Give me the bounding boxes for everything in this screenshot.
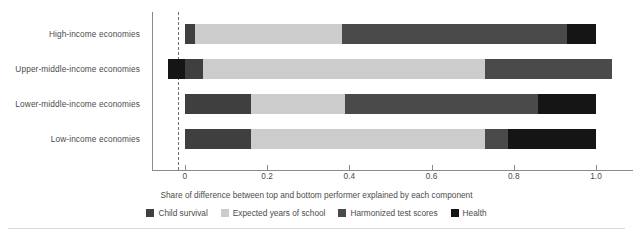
bar-segment-harmonized-test-scores[interactable] bbox=[485, 129, 508, 149]
legend-swatch-icon bbox=[451, 209, 459, 217]
bottom-divider bbox=[8, 228, 625, 229]
x-tick-mark bbox=[349, 165, 350, 170]
chart-legend: Child survivalExpected years of schoolHa… bbox=[0, 208, 633, 218]
x-tick-label: 1.0 bbox=[590, 171, 602, 181]
bar-segment-child-survival[interactable] bbox=[185, 129, 251, 149]
legend-label: Expected years of school bbox=[233, 208, 326, 218]
bar-segment-expected-years-of-school[interactable] bbox=[195, 24, 342, 44]
bar-segment-health[interactable] bbox=[538, 94, 596, 114]
legend-item-health[interactable]: Health bbox=[451, 208, 487, 218]
x-tick-mark bbox=[596, 165, 597, 170]
legend-swatch-icon bbox=[146, 209, 154, 217]
stacked-bar-chart: High-income economies Upper-middle-incom… bbox=[0, 0, 633, 236]
bar-lower-middle-income-economies[interactable] bbox=[152, 94, 633, 114]
x-tick-label: 0.4 bbox=[344, 171, 356, 181]
x-tick-label: 0 bbox=[183, 171, 188, 181]
bar-segment-child-survival[interactable] bbox=[185, 59, 204, 79]
bar-segment-harmonized-test-scores[interactable] bbox=[345, 94, 538, 114]
bar-low-income-economies[interactable] bbox=[152, 129, 633, 149]
x-tick-label: 0.6 bbox=[426, 171, 438, 181]
legend-label: Harmonized test scores bbox=[350, 208, 437, 218]
legend-label: Child survival bbox=[158, 208, 207, 218]
x-tick-mark bbox=[185, 165, 186, 170]
legend-item-child-survival[interactable]: Child survival bbox=[146, 208, 207, 218]
legend-label: Health bbox=[463, 208, 487, 218]
x-tick-mark bbox=[267, 165, 268, 170]
y-axis-label-upper-middle-income: Upper-middle-income economies bbox=[15, 64, 140, 74]
legend-item-expected-years-of-school[interactable]: Expected years of school bbox=[221, 208, 326, 218]
bar-upper-middle-income-economies[interactable] bbox=[152, 59, 633, 79]
bar-segment-harmonized-test-scores[interactable] bbox=[342, 24, 567, 44]
bar-segment-expected-years-of-school[interactable] bbox=[203, 59, 485, 79]
y-axis-label-lower-middle-income: Lower-middle-income economies bbox=[15, 99, 140, 109]
bar-segment-health[interactable] bbox=[168, 59, 184, 79]
bar-segment-expected-years-of-school[interactable] bbox=[251, 129, 485, 149]
bar-segment-health[interactable] bbox=[508, 129, 596, 149]
x-axis-ticks: 00.20.40.60.81.0 bbox=[152, 170, 633, 186]
y-axis-label-high-income: High-income economies bbox=[49, 29, 140, 39]
x-tick-label: 0.8 bbox=[508, 171, 520, 181]
x-tick-mark bbox=[432, 165, 433, 170]
bar-high-income-economies[interactable] bbox=[152, 24, 633, 44]
plot-area bbox=[152, 12, 633, 170]
y-axis-labels: High-income economies Upper-middle-incom… bbox=[0, 12, 146, 170]
bar-segment-health[interactable] bbox=[567, 24, 596, 44]
bar-segment-expected-years-of-school[interactable] bbox=[251, 94, 346, 114]
bar-segment-child-survival[interactable] bbox=[185, 24, 195, 44]
x-axis-title: Share of difference between top and bott… bbox=[0, 190, 633, 200]
bar-segment-child-survival[interactable] bbox=[185, 94, 251, 114]
x-tick-mark bbox=[514, 165, 515, 170]
legend-swatch-icon bbox=[221, 209, 229, 217]
x-tick-label: 0.2 bbox=[261, 171, 273, 181]
y-axis-label-low-income: Low-income economies bbox=[51, 134, 140, 144]
legend-swatch-icon bbox=[338, 209, 346, 217]
legend-item-harmonized-test-scores[interactable]: Harmonized test scores bbox=[338, 208, 437, 218]
bar-segment-harmonized-test-scores[interactable] bbox=[485, 59, 612, 79]
